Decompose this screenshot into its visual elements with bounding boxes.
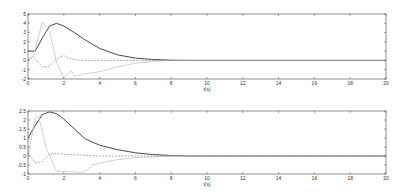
- series-solid-dark: [28, 112, 386, 156]
- x-tick-label: 14: [276, 80, 282, 86]
- x-tick-label: 14: [276, 175, 282, 181]
- x-tick-label: 0: [27, 175, 30, 181]
- plot-frame: [28, 14, 386, 79]
- x-tick-label: 8: [170, 175, 173, 181]
- y-tick-label: 1: [23, 135, 26, 141]
- y-tick-label: -1: [22, 67, 27, 73]
- y-tick-label: 1: [23, 48, 26, 54]
- x-tick-label: 4: [98, 80, 101, 86]
- y-tick-label: 2: [23, 117, 26, 123]
- x-tick-label: 16: [312, 80, 318, 86]
- x-tick-label: 6: [134, 80, 137, 86]
- x-tick-label: 2: [62, 80, 65, 86]
- y-tick-label: -1: [22, 171, 27, 177]
- bottom-plot: 024681012141618202.521.510.50-0.5-1t(s): [17, 108, 389, 187]
- x-tick-label: 18: [347, 80, 353, 86]
- chart-figure: 02468101214161820543210-1-2t(s) 02468101…: [0, 0, 406, 195]
- y-tick-label: 0.5: [19, 144, 26, 150]
- y-tick-label: 1.5: [19, 126, 26, 132]
- y-tick-label: 2: [23, 39, 26, 45]
- x-tick-label: 12: [240, 175, 246, 181]
- x-axis-label: t(s): [203, 181, 211, 187]
- y-tick-label: 3: [23, 29, 26, 35]
- y-tick-label: 5: [23, 11, 26, 17]
- y-tick-label: 0: [23, 57, 26, 63]
- series-light-spike: [28, 22, 386, 78]
- x-tick-label: 8: [170, 80, 173, 86]
- x-tick-label: 4: [98, 175, 101, 181]
- x-tick-label: 18: [347, 175, 353, 181]
- y-tick-label: 0: [23, 153, 26, 159]
- x-tick-label: 2: [62, 175, 65, 181]
- series-dashed: [28, 152, 386, 163]
- x-tick-label: 20: [383, 175, 389, 181]
- x-axis-label: t(s): [203, 86, 211, 92]
- series-light-spike: [28, 116, 386, 172]
- top-plot: 02468101214161820543210-1-2t(s): [22, 11, 389, 92]
- x-tick-label: 6: [134, 175, 137, 181]
- y-tick-label: 2.5: [19, 108, 26, 114]
- plot-frame: [28, 111, 386, 174]
- y-tick-label: 4: [23, 20, 26, 26]
- x-tick-label: 0: [27, 80, 30, 86]
- series-dashed: [28, 56, 386, 67]
- x-tick-label: 12: [240, 80, 246, 86]
- x-tick-label: 20: [383, 80, 389, 86]
- x-tick-label: 16: [312, 175, 318, 181]
- y-tick-label: -2: [22, 76, 27, 82]
- y-tick-label: -0.5: [17, 162, 26, 168]
- series-solid-dark: [28, 23, 386, 60]
